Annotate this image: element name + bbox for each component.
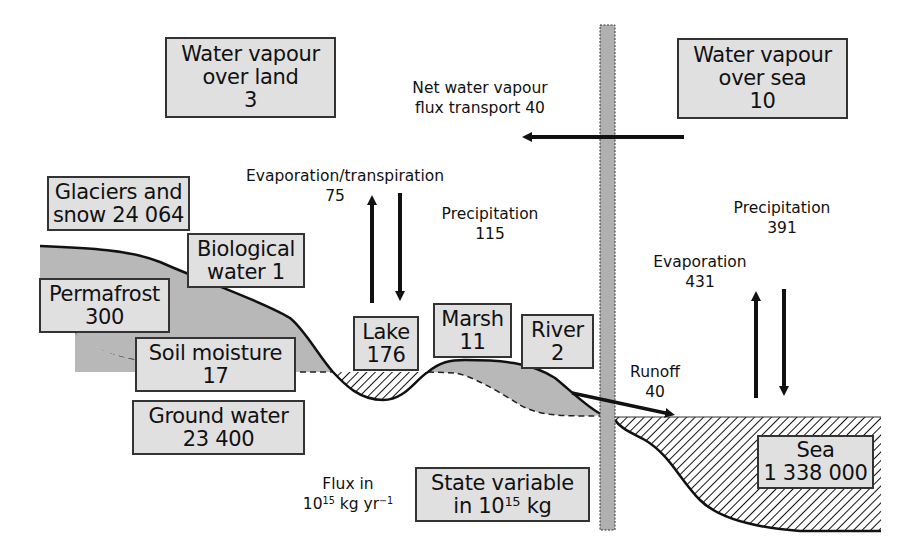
river-label: River bbox=[531, 319, 584, 342]
soil-moisture-label: Soil moisture bbox=[149, 342, 282, 365]
land-sea-divider bbox=[600, 25, 615, 530]
sea-box: Sea 1 338 000 bbox=[757, 435, 874, 489]
sea-value: 1 338 000 bbox=[763, 462, 867, 485]
vapour-land-title-2: over land bbox=[202, 66, 298, 89]
marsh-label: Marsh bbox=[441, 308, 503, 331]
sea-label: Sea bbox=[796, 439, 834, 462]
soil-moisture-box: Soil moisture 17 bbox=[135, 337, 296, 392]
glaciers-line-2: snow 24 064 bbox=[53, 204, 184, 227]
biological-line-1: Biological bbox=[197, 238, 295, 261]
lake-label: Lake bbox=[362, 321, 410, 344]
ground-water-value: 23 400 bbox=[183, 428, 255, 451]
biological-water-box: Biological water 1 bbox=[187, 233, 305, 288]
soil-moisture-value: 17 bbox=[202, 365, 228, 388]
marsh-box: Marsh 11 bbox=[433, 303, 512, 358]
land-evaporation-label: Evaporation/transpiration 75 bbox=[246, 166, 444, 206]
legend-state-line-2: in 1015 kg bbox=[453, 495, 551, 518]
legend-flux-label: Flux in 1015 kg yr−1 bbox=[303, 474, 393, 514]
water-vapour-sea-box: Water vapour over sea 10 bbox=[677, 38, 848, 119]
ground-water-label: Ground water bbox=[148, 405, 288, 428]
runoff-label: Runoff 40 bbox=[630, 362, 680, 402]
biological-line-2: water 1 bbox=[207, 261, 285, 284]
vapour-sea-title-2: over sea bbox=[719, 67, 807, 90]
permafrost-box: Permafrost 300 bbox=[39, 278, 170, 333]
legend-state-variable-box: State variable in 1015 kg bbox=[415, 467, 590, 522]
water-vapour-land-box: Water vapour over land 3 bbox=[165, 37, 336, 118]
glaciers-line-1: Glaciers and bbox=[55, 181, 182, 204]
ground-water-box: Ground water 23 400 bbox=[132, 400, 305, 455]
sea-precipitation-label: Precipitation 391 bbox=[734, 198, 831, 238]
vapour-sea-title-1: Water vapour bbox=[693, 44, 832, 67]
net-transport-label: Net water vapour flux transport 40 bbox=[412, 78, 547, 118]
vapour-land-title-1: Water vapour bbox=[181, 43, 320, 66]
permafrost-value: 300 bbox=[85, 306, 124, 329]
land-precipitation-label: Precipitation 115 bbox=[442, 204, 539, 244]
legend-state-line-1: State variable bbox=[431, 472, 574, 495]
permafrost-label: Permafrost bbox=[49, 283, 160, 306]
vapour-land-value: 3 bbox=[244, 89, 257, 112]
river-value: 2 bbox=[551, 342, 564, 365]
river-box: River 2 bbox=[521, 314, 594, 369]
sea-evaporation-label: Evaporation 431 bbox=[653, 252, 746, 292]
vapour-sea-value: 10 bbox=[749, 90, 775, 113]
lake-box: Lake 176 bbox=[353, 316, 419, 371]
glaciers-box: Glaciers and snow 24 064 bbox=[47, 176, 190, 231]
marsh-value: 11 bbox=[459, 331, 485, 354]
lake-value: 176 bbox=[366, 344, 405, 367]
